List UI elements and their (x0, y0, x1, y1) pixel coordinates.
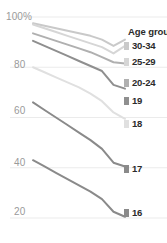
legend-item-25-29[interactable]: 25-29 (124, 56, 155, 67)
legend-item-20-24[interactable]: 20-24 (124, 77, 155, 88)
y-axis-tick-60: 60 (14, 106, 25, 116)
legend-title: Age group (128, 26, 167, 37)
legend-item-19[interactable]: 19 (124, 95, 142, 106)
legend-item-label: 17 (132, 163, 142, 174)
legend-item-17[interactable]: 17 (124, 163, 142, 174)
y-axis-tick-40: 40 (14, 158, 25, 168)
series-line-16 (33, 160, 125, 217)
line-chart: 100% 80 60 40 20 Age group 30-34 25-29 2… (0, 0, 167, 243)
legend-swatch-icon (124, 42, 129, 50)
legend-swatch-icon (124, 79, 129, 87)
legend-item-label: 30-34 (132, 40, 155, 51)
legend-item-label: 16 (132, 207, 142, 218)
y-axis-tick-20: 20 (14, 207, 25, 217)
series-line-17 (33, 102, 125, 166)
legend-swatch-icon (124, 120, 129, 128)
series-line-30-34 (33, 23, 125, 46)
legend-item-16[interactable]: 16 (124, 207, 142, 218)
legend-swatch-icon (124, 97, 129, 105)
series-line-20-24 (33, 33, 125, 63)
legend-item-label: 19 (132, 95, 142, 106)
y-axis-tick-100: 100% (6, 12, 32, 22)
legend-swatch-icon (124, 165, 129, 173)
legend-item-label: 18 (132, 118, 142, 129)
legend-item-30-34[interactable]: 30-34 (124, 40, 155, 51)
legend-item-label: 25-29 (132, 56, 155, 67)
legend-swatch-icon (124, 209, 129, 217)
series-lines (33, 23, 125, 216)
legend-item-label: 20-24 (132, 77, 155, 88)
legend-swatch-icon (124, 58, 129, 66)
y-axis-tick-80: 80 (14, 60, 25, 70)
legend-item-18[interactable]: 18 (124, 118, 142, 129)
